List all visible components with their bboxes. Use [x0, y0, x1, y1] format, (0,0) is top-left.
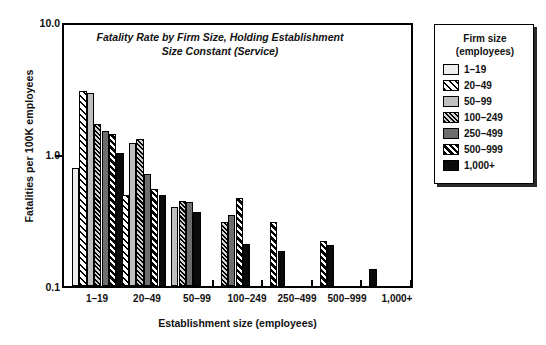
x-axis-title: Establishment size (employees)	[62, 317, 413, 329]
bar	[87, 93, 94, 286]
legend-item[interactable]: 1,000+	[443, 159, 527, 172]
bar	[327, 245, 334, 286]
bar	[270, 222, 277, 286]
bar	[278, 251, 285, 286]
bar	[129, 143, 136, 286]
bar	[228, 215, 235, 286]
plot-inner	[64, 25, 411, 286]
bar	[369, 269, 376, 286]
legend-items: 1–1920–4950–99100–249250–499500–9991,000…	[443, 63, 527, 172]
legend-swatch-icon	[443, 160, 459, 171]
legend-item[interactable]: 500–999	[443, 143, 527, 156]
bar	[122, 195, 129, 286]
legend-item-label: 20–49	[464, 80, 492, 91]
y-tick-label-0-1: 0.1	[20, 282, 60, 293]
legend-item[interactable]: 100–249	[443, 111, 527, 124]
bar	[102, 131, 109, 286]
chart-title: Fatality Rate by Firm Size, Holding Esta…	[70, 30, 370, 58]
legend-swatch-icon	[443, 112, 459, 123]
chart-title-line-2: Size Constant (Service)	[70, 44, 370, 58]
legend-swatch-icon	[443, 64, 459, 75]
x-tick-mark	[261, 280, 263, 287]
bar	[94, 124, 101, 286]
legend-title-line-2: (employees)	[443, 45, 527, 58]
chart-figure: Fatalities per 100K employees 10.0 1.0 0…	[0, 0, 546, 345]
legend-item-label: 250–499	[464, 128, 503, 139]
legend-item[interactable]: 1–19	[443, 63, 527, 76]
bar	[159, 195, 166, 286]
legend: Firm size (employees) 1–1920–4950–99100–…	[434, 24, 534, 184]
legend-item[interactable]: 50–99	[443, 95, 527, 108]
bar	[79, 91, 86, 286]
legend-swatch-icon	[443, 80, 459, 91]
y-tick-label-10: 10.0	[20, 18, 60, 29]
bar	[193, 212, 200, 286]
bar	[144, 174, 151, 286]
chart-title-line-1: Fatality Rate by Firm Size, Holding Esta…	[70, 30, 370, 44]
bar	[151, 189, 158, 286]
y-tick-label-1: 1.0	[20, 150, 60, 161]
legend-item-label: 1,000+	[464, 160, 495, 171]
x-tick-mark	[410, 280, 412, 287]
bar	[72, 168, 79, 286]
legend-item[interactable]: 250–499	[443, 127, 527, 140]
legend-item[interactable]: 20–49	[443, 79, 527, 92]
legend-swatch-icon	[443, 96, 459, 107]
legend-title: Firm size (employees)	[443, 32, 527, 58]
bar	[171, 207, 178, 286]
x-tick-mark	[311, 280, 313, 287]
legend-item-label: 100–249	[464, 112, 503, 123]
y-axis-ticks: 10.0 1.0 0.1	[10, 0, 60, 345]
bar	[320, 241, 327, 286]
x-tick-mark	[360, 280, 362, 287]
bar	[236, 198, 243, 286]
legend-swatch-icon	[443, 144, 459, 155]
legend-item-label: 50–99	[464, 96, 492, 107]
bar	[136, 139, 143, 287]
x-tick-mark	[212, 280, 214, 287]
bar	[179, 201, 186, 286]
bar	[243, 244, 250, 286]
legend-item-label: 500–999	[464, 144, 503, 155]
bar	[109, 134, 116, 286]
bar	[221, 222, 228, 286]
bar	[186, 202, 193, 286]
legend-title-line-1: Firm size	[443, 32, 527, 45]
legend-swatch-icon	[443, 128, 459, 139]
plot-area	[62, 23, 413, 288]
x-tick-label-6: 1,000+	[360, 293, 434, 304]
legend-item-label: 1–19	[464, 64, 486, 75]
